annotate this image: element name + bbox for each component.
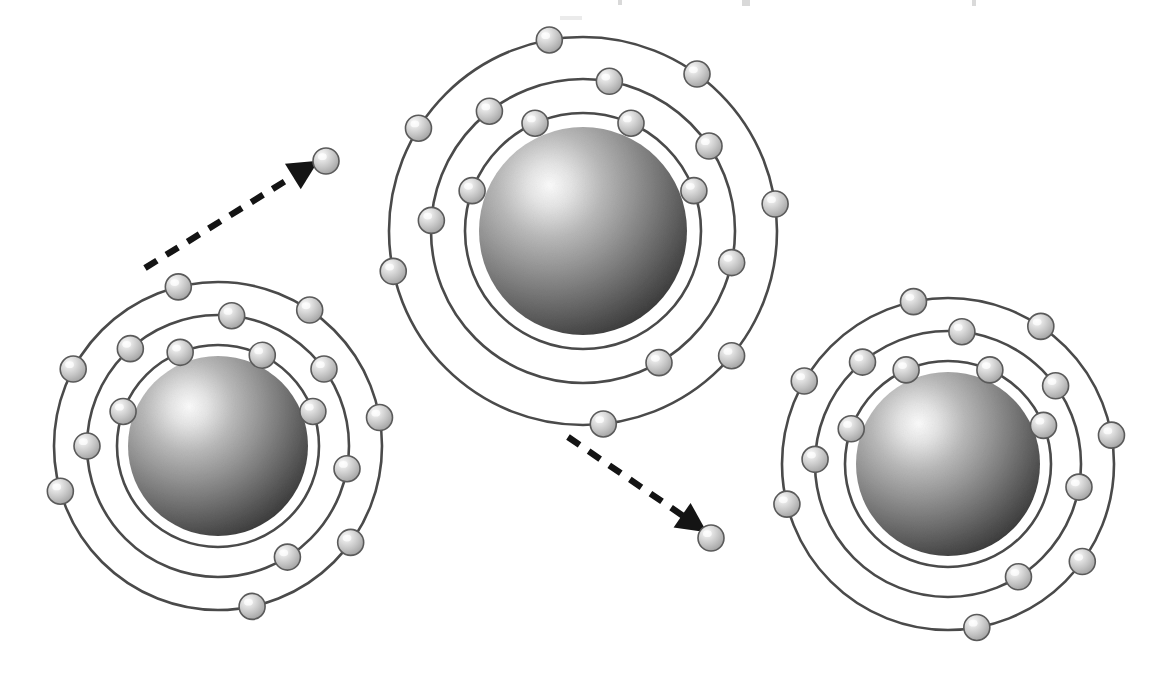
- left-atom-middle-shell-electron-1: [274, 544, 300, 570]
- electron-sphere: [964, 614, 990, 640]
- electron-sphere: [313, 148, 339, 174]
- electron-sphere: [802, 446, 828, 472]
- nucleus-sphere: [856, 372, 1040, 556]
- electron-sphere: [219, 303, 245, 329]
- electron-highlight: [898, 362, 907, 369]
- right-atom-outer-shell-electron-7: [774, 491, 800, 517]
- center-atom-outer-shell-electron-7: [380, 258, 406, 284]
- electron-sphere: [949, 319, 975, 345]
- electron-highlight: [807, 452, 816, 459]
- right-atom-middle-shell-electron-3: [1043, 373, 1069, 399]
- left-atom-middle-shell-electron-2: [334, 456, 360, 482]
- right-atom-middle-shell-electron-5: [850, 349, 876, 375]
- electron-highlight: [316, 361, 325, 368]
- electron-highlight: [172, 345, 181, 352]
- center-atom-outer-shell-electron-4: [684, 61, 710, 87]
- electron-highlight: [279, 549, 288, 556]
- electron-sphere: [167, 339, 193, 365]
- electron-sphere: [1098, 422, 1124, 448]
- electron-highlight: [244, 599, 253, 606]
- electron-sphere: [1069, 549, 1095, 575]
- electron-highlight: [170, 279, 179, 286]
- electron-sphere: [618, 110, 644, 136]
- electron-sphere: [1005, 564, 1031, 590]
- right-atom-inner-shell-electron-2: [977, 357, 1003, 383]
- electron-highlight: [1071, 479, 1080, 486]
- center-atom-outer-shell-electron-2: [719, 343, 745, 369]
- electron-sphere: [1028, 313, 1054, 339]
- electron-sphere: [696, 133, 722, 159]
- center-atom-inner-shell-electron-4: [459, 178, 485, 204]
- right-atom-outer-shell-electron-4: [1028, 313, 1054, 339]
- electron-sphere: [297, 297, 323, 323]
- right-atom-nucleus: [856, 372, 1040, 556]
- electron-highlight: [371, 410, 380, 417]
- electron-highlight: [843, 421, 852, 428]
- electron-highlight: [254, 348, 263, 355]
- electron-sphere: [900, 289, 926, 315]
- electron-highlight: [982, 362, 991, 369]
- left-atom-outer-shell-electron-6: [60, 356, 86, 382]
- electron-highlight: [796, 373, 805, 380]
- right-atom-outer-shell-electron-5: [900, 289, 926, 315]
- electron-highlight: [65, 361, 74, 368]
- right-atom-inner-shell-electron-1: [1030, 412, 1056, 438]
- electron-sphere: [334, 456, 360, 482]
- electron-sphere: [1030, 412, 1056, 438]
- electron-sphere: [762, 191, 788, 217]
- electron-sphere: [1066, 474, 1092, 500]
- electron-highlight: [905, 294, 914, 301]
- electron-highlight: [527, 116, 536, 123]
- electron-highlight: [318, 153, 327, 160]
- left-atom-outer-shell-electron-4: [297, 297, 323, 323]
- electron-highlight: [1048, 378, 1057, 385]
- electron-sphere: [418, 207, 444, 233]
- right-atom-outer-shell-electron-6: [791, 368, 817, 394]
- electron-sphere: [536, 27, 562, 53]
- electron-sphere: [893, 357, 919, 383]
- electron-highlight: [1074, 554, 1083, 561]
- right-atom-middle-shell-electron-6: [802, 446, 828, 472]
- electron-sphere: [681, 178, 707, 204]
- left-atom-inner-shell-electron-1: [300, 398, 326, 424]
- right-atom-outer-shell-electron-2: [1069, 549, 1095, 575]
- electron-highlight: [302, 302, 311, 309]
- electron-highlight: [954, 324, 963, 331]
- electron-sphere: [1043, 373, 1069, 399]
- left-atom-inner-shell-electron-2: [249, 342, 275, 368]
- electron-sphere: [590, 411, 616, 437]
- center-atom-inner-shell-electron-2: [618, 110, 644, 136]
- electron-sphere: [380, 258, 406, 284]
- electron-sphere: [367, 405, 393, 431]
- electron-sphere: [791, 368, 817, 394]
- electron-highlight: [224, 308, 233, 315]
- electron-sphere: [459, 178, 485, 204]
- electron-highlight: [1103, 428, 1112, 435]
- electron-sphere: [110, 398, 136, 424]
- electron-sphere: [338, 529, 364, 555]
- electron-highlight: [854, 354, 863, 361]
- electron-highlight: [343, 535, 352, 542]
- emitted-electron-lower-center: [698, 525, 724, 551]
- emitted-electron-upper-left: [313, 148, 339, 174]
- electron-highlight: [601, 74, 610, 81]
- left-atom-nucleus: [128, 356, 308, 536]
- nucleus-sphere: [128, 356, 308, 536]
- center-atom-outer-shell-electron-5: [536, 27, 562, 53]
- left-atom-inner-shell-electron-4: [110, 398, 136, 424]
- center-atom-middle-shell-electron-3: [696, 133, 722, 159]
- electron-sphere: [300, 398, 326, 424]
- center-atom-middle-shell-electron-1: [646, 350, 672, 376]
- electron-sphere: [405, 115, 431, 141]
- electron-highlight: [464, 183, 473, 190]
- left-atom-middle-shell-electron-5: [117, 336, 143, 362]
- center-atom-middle-shell-electron-4: [596, 68, 622, 94]
- electron-highlight: [1035, 418, 1044, 425]
- electron-highlight: [1033, 319, 1042, 326]
- electron-highlight: [701, 138, 710, 145]
- electron-highlight: [595, 416, 604, 423]
- electron-highlight: [481, 104, 490, 111]
- electron-highlight: [689, 66, 698, 73]
- electron-sphere: [719, 343, 745, 369]
- electron-highlight: [410, 121, 419, 128]
